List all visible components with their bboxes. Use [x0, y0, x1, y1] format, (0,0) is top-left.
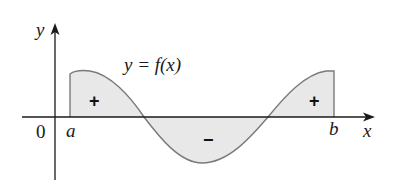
- area-under-curve-diagram: [0, 0, 399, 193]
- function-label: y = f(x): [124, 55, 181, 74]
- lower-bound-a: a: [66, 121, 76, 140]
- positive-region-right: [268, 71, 334, 117]
- positive-sign-right: +: [309, 92, 320, 110]
- origin-label: 0: [36, 122, 46, 141]
- upper-bound-b: b: [329, 119, 339, 138]
- y-axis-label: y: [36, 20, 44, 39]
- positive-sign-left: +: [89, 92, 100, 110]
- negative-sign: −: [203, 131, 214, 149]
- x-axis-label: x: [363, 121, 371, 140]
